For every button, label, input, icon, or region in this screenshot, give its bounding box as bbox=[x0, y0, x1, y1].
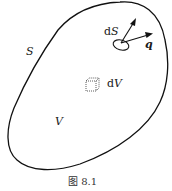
arrowhead-icon bbox=[130, 18, 136, 26]
diagram-canvas bbox=[0, 0, 172, 191]
figure-caption: 图 8.1 bbox=[68, 177, 97, 187]
differential-d: d bbox=[107, 77, 114, 90]
flux-vector-label: q bbox=[145, 39, 153, 50]
volume-label: V bbox=[55, 116, 63, 127]
surface-element-var: S bbox=[111, 25, 119, 38]
surface-element-ellipse bbox=[112, 38, 130, 52]
volume-element-var: V bbox=[114, 77, 122, 90]
volume-element-cube bbox=[86, 78, 99, 91]
closed-surface-boundary bbox=[8, 2, 168, 170]
surface-label: S bbox=[26, 46, 34, 57]
volume-element-label: dV bbox=[107, 78, 122, 89]
surface-element-label: dS bbox=[104, 26, 119, 37]
differential-d: d bbox=[104, 25, 111, 38]
